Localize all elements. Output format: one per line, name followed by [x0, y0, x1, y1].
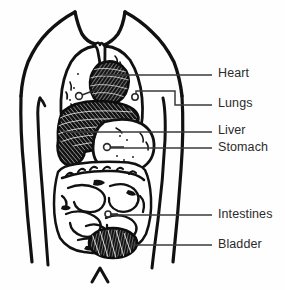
label-stomach: Stomach [218, 141, 268, 154]
label-intestines: Intestines [218, 208, 273, 221]
label-liver: Liver [218, 124, 246, 137]
label-heart: Heart [218, 67, 249, 80]
marker-intestines [105, 211, 111, 217]
leader-line-lungs [136, 91, 212, 105]
marker-heart [76, 93, 83, 100]
heart-organ [90, 61, 129, 104]
label-bladder: Bladder [218, 238, 262, 251]
marker-lungs [132, 94, 138, 100]
marker-stomach [104, 144, 111, 151]
anatomy-diagram: Heart Lungs Liver Stomach Intestines Bla… [0, 0, 285, 290]
label-lungs: Lungs [218, 97, 253, 110]
bladder-organ [89, 228, 137, 258]
